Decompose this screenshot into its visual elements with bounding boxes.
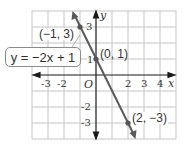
x-tick-neg3: -3 [41, 79, 51, 89]
x-axis-label: x [168, 78, 174, 89]
equation-text: y = −2x + 1 [11, 50, 76, 65]
point-label-2-neg3: (2, −3) [131, 112, 168, 124]
equation-label: y = −2x + 1 [5, 47, 81, 67]
x-tick-4: 4 [157, 79, 163, 89]
x-tick-2: 2 [125, 79, 131, 89]
point-label-neg1-3: (−1, 3) [38, 28, 75, 40]
x-tick-3: 3 [141, 79, 147, 89]
x-tick-neg2: -2 [57, 79, 67, 89]
y-tick-neg3: -3 [81, 118, 91, 128]
coordinate-plane [0, 0, 188, 152]
origin-label: O [84, 79, 93, 90]
y-tick-1: 1 [87, 55, 93, 65]
y-tick-3: 3 [86, 22, 92, 32]
point-label-0-1: (0, 1) [99, 48, 129, 60]
y-tick-neg2: -2 [81, 102, 91, 112]
y-axis-label: y [100, 10, 106, 21]
